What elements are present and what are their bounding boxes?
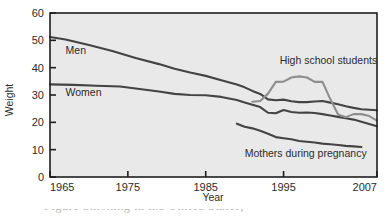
figure-container: 0102030405060 19651975198519952007 MenWo…: [0, 0, 389, 218]
y-tick-label: 30: [32, 89, 44, 101]
y-tick-label: 60: [32, 7, 44, 19]
y-tick-label: 40: [32, 62, 44, 74]
y-axis-title: Weight: [3, 84, 15, 117]
y-tick-label: 0: [38, 171, 44, 183]
annotation-high-school-students: High school students: [280, 54, 377, 66]
figure-caption: Figure Smoking in the United States,: [44, 209, 244, 214]
y-tick-label: 50: [32, 34, 44, 46]
annotation-mothers-during-pregnancy: Mothers during pregnancy: [245, 147, 368, 159]
x-tick-label: 1965: [50, 181, 74, 193]
x-tick-label: 1995: [271, 181, 295, 193]
annotation-women: Women: [66, 86, 102, 98]
weight-trend-line-chart: 0102030405060 19651975198519952007 MenWo…: [0, 0, 389, 218]
x-tick-label: 2007: [353, 181, 377, 193]
x-tick-label: 1975: [116, 181, 140, 193]
annotation-men: Men: [66, 44, 87, 56]
figure-caption-strip: Figure Smoking in the United States,: [0, 209, 389, 218]
y-tick-label: 20: [32, 116, 44, 128]
x-axis-title: Year: [202, 191, 224, 203]
y-tick-label: 10: [32, 144, 44, 156]
